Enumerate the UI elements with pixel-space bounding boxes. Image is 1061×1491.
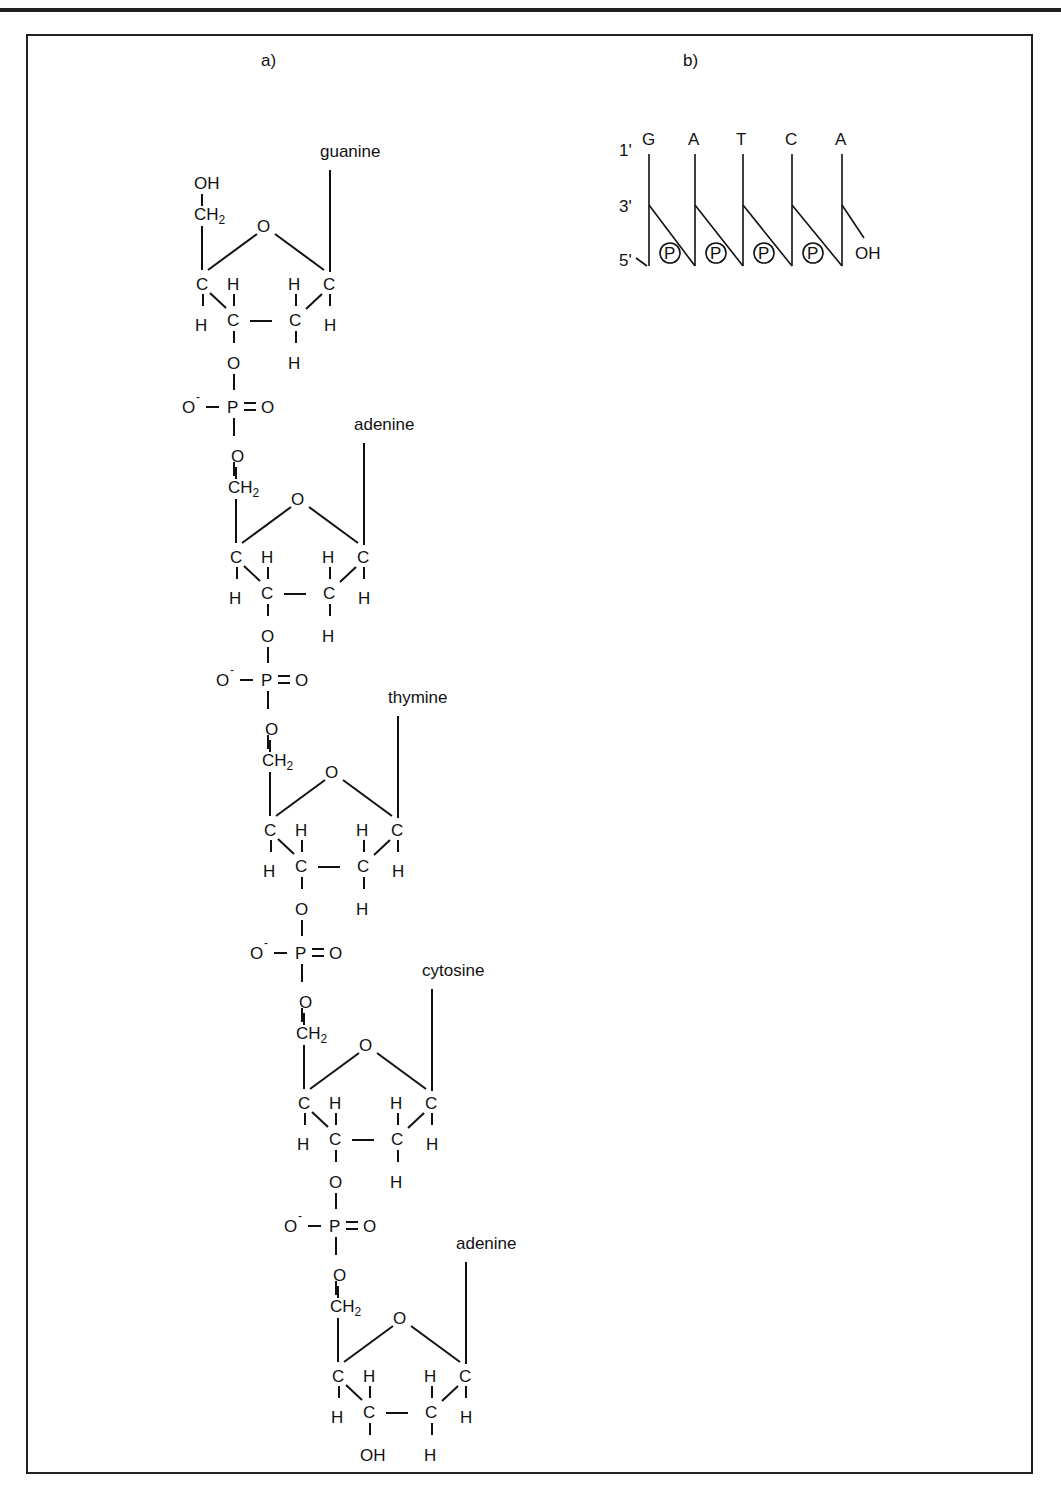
bond-c2-c1 xyxy=(442,1386,458,1401)
c2-hydrogen-lower: H xyxy=(322,627,334,646)
ester-oxygen: O xyxy=(265,720,278,739)
c2-carbon: C xyxy=(357,857,369,876)
three-prime-hydroxyl: OH xyxy=(360,1446,386,1465)
five-prime-tick xyxy=(636,258,647,266)
phosphorus: P xyxy=(227,398,238,417)
ring-oxygen: O xyxy=(359,1036,372,1055)
phosphate-double-oxygen: O xyxy=(329,944,342,963)
c4-hydrogen: H xyxy=(331,1408,343,1427)
c4-carbon: C xyxy=(264,821,276,840)
bond-o-c1 xyxy=(309,507,358,543)
three-prime-oxygen: O xyxy=(261,627,274,646)
bond-c4-c3 xyxy=(244,566,260,581)
c1-carbon: C xyxy=(459,1367,471,1386)
phosphate-double-oxygen: O xyxy=(295,671,308,690)
nucleotide-unit: OCH2OCHCHCHHCHadenineOO-PO xyxy=(216,415,415,749)
sequence-base-A: A xyxy=(688,130,700,149)
bond-c4-o xyxy=(208,234,257,270)
c1-hydrogen: H xyxy=(358,589,370,608)
c4-carbon: C xyxy=(196,275,208,294)
c2-carbon: C xyxy=(391,1130,403,1149)
ch2-group: CH2 xyxy=(296,1024,328,1046)
bond-c4-c3 xyxy=(210,293,226,308)
c1-hydrogen: H xyxy=(392,862,404,881)
nucleotide-unit: OCH2OCHCHCHHCHadenineOH xyxy=(330,1234,517,1465)
negative-charge: - xyxy=(298,1209,302,1223)
c3-hydrogen: H xyxy=(363,1367,375,1386)
c3-hydrogen: H xyxy=(329,1094,341,1113)
c3-carbon: C xyxy=(227,311,239,330)
phosphate-double-oxygen: O xyxy=(363,1217,376,1236)
phosphate-charged-oxygen: O xyxy=(216,671,229,690)
ring-oxygen: O xyxy=(393,1309,406,1328)
phosphate-symbol: P xyxy=(664,244,675,263)
terminal-hydroxyl: OH xyxy=(855,244,881,263)
c3-hydrogen: H xyxy=(295,821,307,840)
phosphorus: P xyxy=(295,944,306,963)
bond-o-c1 xyxy=(275,234,324,270)
bond-c2-c1 xyxy=(340,567,356,582)
dna-structure-diagram: a) b) OHCH2OCHCHCHHCHguanineOO-POOCH2OCH… xyxy=(0,0,1061,1491)
ring-oxygen: O xyxy=(325,763,338,782)
c4-hydrogen: H xyxy=(195,316,207,335)
sequence-base-C: C xyxy=(785,130,797,149)
sequence-base-T: T xyxy=(736,130,746,149)
bond-c4-c3 xyxy=(312,1112,328,1127)
ch2-group: CH2 xyxy=(194,205,226,227)
sequence-base-A: A xyxy=(835,130,847,149)
bond-o-c1 xyxy=(343,780,392,816)
c3-hydrogen: H xyxy=(261,548,273,567)
bond-o-c1 xyxy=(411,1326,460,1362)
phosphate-charged-oxygen: O xyxy=(284,1217,297,1236)
c4-hydrogen: H xyxy=(263,862,275,881)
c3-carbon: C xyxy=(329,1130,341,1149)
phosphate-symbol: P xyxy=(710,244,721,263)
ester-oxygen: O xyxy=(231,447,244,466)
c2-hydrogen-lower: H xyxy=(288,354,300,373)
ring-oxygen: O xyxy=(257,217,270,236)
c1-carbon: C xyxy=(391,821,403,840)
c4-carbon: C xyxy=(230,548,242,567)
bond-c2-c1 xyxy=(374,840,390,855)
sequence-base-G: G xyxy=(642,130,655,149)
three-prime-label: 3' xyxy=(619,197,632,216)
c2-hydrogen-lower: H xyxy=(356,900,368,919)
c4-carbon: C xyxy=(332,1367,344,1386)
nucleotide-unit: OHCH2OCHCHCHHCHguanineOO-PO xyxy=(182,142,381,476)
c1-carbon: C xyxy=(323,275,335,294)
five-prime-hydroxyl: OH xyxy=(194,174,220,193)
c1-hydrogen: H xyxy=(324,316,336,335)
bond-c4-o xyxy=(276,780,325,816)
bond-o-c1 xyxy=(377,1053,426,1089)
bond-c4-o xyxy=(242,507,291,543)
c4-hydrogen: H xyxy=(297,1135,309,1154)
phosphate-symbol: P xyxy=(807,244,818,263)
phosphorus: P xyxy=(329,1217,340,1236)
three-prime-oxygen: O xyxy=(329,1173,342,1192)
c3-carbon: C xyxy=(363,1403,375,1422)
bond-c4-o xyxy=(310,1053,359,1089)
c2-hydrogen-lower: H xyxy=(424,1446,436,1465)
c3-carbon: C xyxy=(261,584,273,603)
c1-hydrogen: H xyxy=(426,1135,438,1154)
negative-charge: - xyxy=(196,390,200,404)
c2-carbon: C xyxy=(289,311,301,330)
c1-carbon: C xyxy=(425,1094,437,1113)
nucleotide-chain: OHCH2OCHCHCHHCHguanineOO-POOCH2OCHCHCHHC… xyxy=(182,142,517,1465)
five-prime-label: 5' xyxy=(619,251,632,270)
c1-hydrogen: H xyxy=(460,1408,472,1427)
c2-carbon: C xyxy=(425,1403,437,1422)
nucleotide-unit: OCH2OCHCHCHHCHthymineOO-PO xyxy=(250,688,448,1022)
base-label-adenine: adenine xyxy=(456,1234,517,1253)
c2-hydrogen-lower: H xyxy=(390,1173,402,1192)
ester-oxygen: O xyxy=(299,993,312,1012)
bond-c4-c3 xyxy=(346,1385,362,1400)
negative-charge: - xyxy=(230,663,234,677)
bond-c4-c3 xyxy=(278,839,294,854)
three-prime-oxygen: O xyxy=(227,354,240,373)
c2-hydrogen: H xyxy=(322,548,334,567)
ch2-group: CH2 xyxy=(330,1297,362,1319)
negative-charge: - xyxy=(264,936,268,950)
bond-c2-c1 xyxy=(306,294,322,309)
base-label-cytosine: cytosine xyxy=(422,961,484,980)
